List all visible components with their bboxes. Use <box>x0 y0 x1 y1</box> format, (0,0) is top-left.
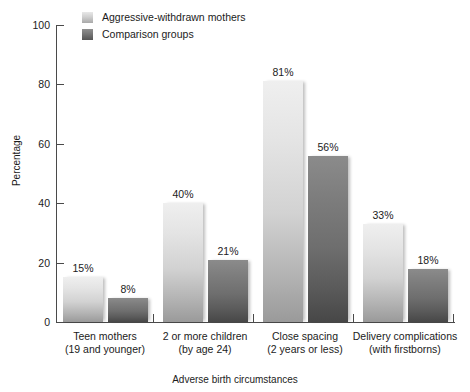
category-label-line1: 2 or more children <box>163 330 248 342</box>
chart-legend: Aggressive-withdrawn mothers Comparison … <box>82 10 246 44</box>
legend-item-aggressive-withdrawn-mothers: Aggressive-withdrawn mothers <box>82 10 246 24</box>
bar-value-label: 56% <box>304 141 352 153</box>
bar-value-label: 81% <box>259 66 307 78</box>
y-axis-tick <box>57 203 64 204</box>
legend-item-label: Aggressive-withdrawn mothers <box>102 11 246 23</box>
y-axis-tick <box>57 144 64 145</box>
bar-value-label: 21% <box>204 245 252 257</box>
y-axis-line <box>56 25 57 322</box>
category-label-line1: Delivery complications <box>353 330 457 342</box>
x-axis-tick <box>453 314 454 322</box>
x-axis-tick <box>353 314 354 322</box>
legend-swatch-icon <box>82 29 93 40</box>
x-axis-title: Adverse birth circumstances <box>0 374 470 385</box>
y-axis-tick <box>57 25 64 26</box>
bar-value-label: 33% <box>359 209 407 221</box>
category-label-line1: Close spacing <box>272 330 338 342</box>
x-axis-category-label: Delivery complications (with firstborns) <box>340 330 470 356</box>
y-axis-tick <box>57 322 64 323</box>
bar-chart: Aggressive-withdrawn mothers Comparison … <box>0 0 470 392</box>
bar-value-label: 8% <box>104 283 152 295</box>
legend-item-label: Comparison groups <box>102 28 194 40</box>
y-axis-tick <box>57 84 64 85</box>
bar-value-label: 40% <box>159 188 207 200</box>
legend-swatch-icon <box>82 12 93 23</box>
bar-value-label: 18% <box>404 254 452 266</box>
y-axis-title: Percentage <box>11 116 22 206</box>
bar-value-label: 15% <box>59 262 107 274</box>
x-axis-tick <box>153 314 154 322</box>
category-label-line2: (with firstborns) <box>340 343 470 356</box>
x-axis-tick <box>253 314 254 322</box>
legend-item-comparison-groups: Comparison groups <box>82 27 246 41</box>
x-axis-line <box>56 322 455 323</box>
category-label-line1: Teen mothers <box>73 330 137 342</box>
